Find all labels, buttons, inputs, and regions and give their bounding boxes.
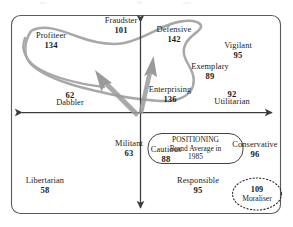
- node-value-fraudster: 101: [93, 26, 149, 35]
- node-value-responsible: 95: [167, 186, 229, 195]
- positioning-callout: POSITIONING Brand Average in 1985: [150, 136, 241, 162]
- node-value-enterprising: 136: [138, 95, 202, 104]
- node-value-defensive: 142: [146, 35, 202, 44]
- node-label-moraliser: 109 Moraliser: [233, 186, 281, 203]
- node-label-utilitarian: 92 Utilitarian: [201, 90, 263, 107]
- node-name-dabbler: Dabbler: [43, 99, 97, 108]
- node-label-profiteer: Profiteer 134: [24, 32, 78, 49]
- node-value-exemplary: 89: [182, 72, 238, 81]
- node-value-vigilant: 95: [213, 51, 263, 60]
- node-label-fraudster: Fraudster 101: [93, 17, 149, 34]
- node-value-profiteer: 134: [24, 41, 78, 50]
- diagram-canvas: Profiteer 134 Fraudster 101 Defensive 14…: [0, 0, 293, 227]
- node-label-exemplary: Exemplary 89: [182, 63, 238, 80]
- callout-line-3: 1985: [150, 153, 241, 162]
- node-label-vigilant: Vigilant 95: [213, 42, 263, 59]
- node-name-moraliser: Moraliser: [233, 195, 281, 203]
- node-value-libertarian: 58: [14, 186, 76, 195]
- node-name-utilitarian: Utilitarian: [201, 98, 263, 107]
- node-label-dabbler: 62 Dabbler: [43, 91, 97, 108]
- node-label-responsible: Responsible 95: [167, 177, 229, 194]
- node-label-libertarian: Libertarian 58: [14, 177, 76, 194]
- node-label-enterprising: Enterprising 136: [138, 86, 202, 103]
- node-label-defensive: Defensive 142: [146, 26, 202, 43]
